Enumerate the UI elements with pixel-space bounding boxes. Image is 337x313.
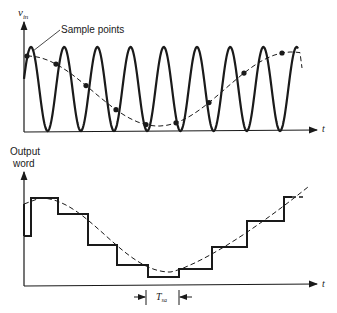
bottom-y-axis-label-line1: Output (10, 146, 40, 157)
output-envelope-dashed (24, 187, 308, 272)
top-plot: vin t Sample points (18, 6, 325, 134)
sample-points-leader (33, 30, 60, 51)
bottom-x-axis-label: t (322, 278, 325, 289)
input-sine-wave (24, 47, 298, 131)
sample-point-dot (143, 122, 148, 127)
sample-point-dot (113, 107, 118, 112)
sample-point-dot (279, 50, 284, 55)
bottom-y-axis-label-line2: word (12, 158, 35, 169)
top-x-axis (24, 130, 317, 132)
sample-point-dot (53, 62, 58, 67)
output-staircase (24, 197, 292, 277)
top-x-axis-label: t (322, 123, 325, 134)
bottom-x-axis (24, 284, 317, 286)
bottom-plot: Output word t Tsa (10, 146, 325, 305)
top-y-axis-label: vin (18, 6, 29, 21)
sample-points-label: Sample points (61, 24, 124, 35)
sample-period-marker: Tsa (134, 290, 192, 305)
sample-point-dot (24, 53, 29, 58)
sample-point-dot (241, 71, 246, 76)
sample-point-dot (173, 120, 178, 125)
sample-point-dot (83, 83, 88, 88)
sample-period-label: Tsa (156, 291, 167, 303)
sample-point-dot (206, 100, 211, 105)
